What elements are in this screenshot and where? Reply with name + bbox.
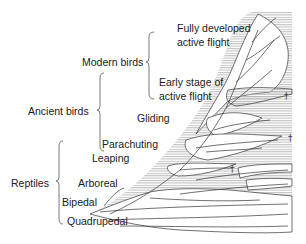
extinction-icon: † <box>284 91 289 101</box>
label-reptiles: Reptiles <box>11 177 49 189</box>
label-leaping: Leaping <box>92 152 129 164</box>
label-early-stage-line2: active flight <box>159 90 212 102</box>
label-fully-developed-line1: Fully developed <box>177 22 251 34</box>
modern-birds-bracket <box>146 32 154 99</box>
extinction-icon: † <box>230 164 235 174</box>
label-bipedal: Bipedal <box>62 196 97 208</box>
reptiles-bracket <box>56 141 63 224</box>
extinction-icon: † <box>288 133 293 143</box>
label-ancient-birds: Ancient birds <box>28 105 89 117</box>
label-arboreal: Arboreal <box>78 177 118 189</box>
label-early-stage-line1: Early stage of <box>159 76 223 88</box>
label-gliding: Gliding <box>137 112 170 124</box>
label-parachuting: Parachuting <box>102 138 158 150</box>
label-modern-birds: Modern birds <box>82 56 143 68</box>
label-quadrupedal: Quadrupedal <box>67 215 128 227</box>
label-fully-developed-line2: active flight <box>177 36 230 48</box>
